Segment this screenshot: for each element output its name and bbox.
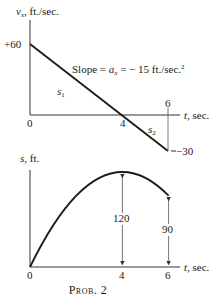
- bottom-x-tick-6: 6: [165, 269, 171, 281]
- v-axis-label: vx, ft./sec.: [16, 5, 59, 19]
- bottom-x-tick-0: 0: [27, 269, 33, 281]
- top-x-tick-0: 0: [27, 117, 33, 129]
- area-s2-label: s2: [148, 123, 156, 137]
- bottom-t-axis-label: t, sec.: [184, 261, 210, 273]
- figure-caption: Prob. 2: [0, 283, 176, 298]
- s-axis-label: s, ft.: [20, 152, 40, 164]
- figure: vx, ft./sec. +60 −30 0 4 6 t, sec. Slope…: [0, 0, 215, 303]
- slope-annotation: Slope = ax = − 15 ft./sec.2: [72, 63, 185, 77]
- displacement-chart: 120 90 s, ft. 0 4 6 t, sec.: [20, 152, 210, 281]
- displacement-curve: [30, 172, 169, 267]
- dim-label-120: 120: [113, 212, 130, 224]
- top-x-tick-4: 4: [120, 117, 126, 129]
- top-x-tick-6: 6: [165, 97, 171, 109]
- area-s1-label: s1: [57, 85, 65, 99]
- bottom-x-tick-4: 4: [119, 269, 125, 281]
- top-t-axis-label: t, sec.: [184, 109, 210, 121]
- v-min-label: −30: [176, 145, 194, 157]
- velocity-chart: vx, ft./sec. +60 −30 0 4 6 t, sec. Slope…: [4, 5, 210, 157]
- v-max-label: +60: [4, 38, 22, 50]
- dim-label-90: 90: [162, 223, 174, 235]
